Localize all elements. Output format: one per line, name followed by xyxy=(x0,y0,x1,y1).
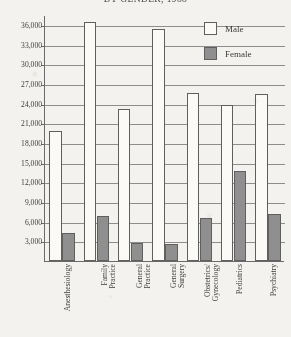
x-axis-label: GeneralSurgery xyxy=(170,264,187,334)
y-axis-label: 36,000 xyxy=(2,21,42,30)
bar-male xyxy=(152,29,165,261)
legend-label-male: Male xyxy=(225,24,244,34)
y-axis-label: 21,000 xyxy=(2,119,42,128)
bar-group xyxy=(148,16,182,261)
y-axis-label: 30,000 xyxy=(2,60,42,69)
bar-female xyxy=(62,233,75,261)
x-axis-label: Psychiatry xyxy=(270,264,278,334)
bar-female xyxy=(234,171,247,261)
bar-male xyxy=(84,22,97,261)
y-axis-label: 18,000 xyxy=(2,139,42,148)
y-axis-label: 3,000 xyxy=(2,237,42,246)
bar-female xyxy=(200,218,213,261)
legend-item-female: Female xyxy=(196,41,284,66)
bar-group xyxy=(114,16,148,261)
y-axis-label: 15,000 xyxy=(2,159,42,168)
bar-female xyxy=(131,243,144,261)
bar-female xyxy=(97,216,110,261)
y-axis-label: 33,000 xyxy=(2,41,42,50)
x-axis-label: GeneralPractice xyxy=(136,264,153,334)
chart-title: BY GENDER, 1988 xyxy=(0,0,291,4)
bar-female xyxy=(165,244,178,261)
bar-male xyxy=(187,93,200,261)
y-axis-label: 9,000 xyxy=(2,198,42,207)
bar-chart: BY GENDER, 1988 3,0006,0009,00012,00015,… xyxy=(0,0,291,337)
x-axis-label: Obstetrics/Gynecology xyxy=(204,264,221,334)
bar-group xyxy=(79,16,113,261)
x-axis-label: Anesthesiology xyxy=(64,264,72,334)
y-axis-label: 24,000 xyxy=(2,100,42,109)
x-axis-label: FamilyPractice xyxy=(101,264,118,334)
chart-legend: Male Female xyxy=(196,16,284,66)
bar-male xyxy=(49,131,62,261)
bar-group xyxy=(45,16,79,261)
legend-swatch-female xyxy=(204,47,217,60)
legend-swatch-male xyxy=(204,22,217,35)
y-axis-label: 12,000 xyxy=(2,178,42,187)
bar-female xyxy=(268,214,281,261)
bar-male xyxy=(221,105,234,261)
y-axis-label: 6,000 xyxy=(2,218,42,227)
x-axis-label: Pediatrics xyxy=(236,264,244,334)
bar-male xyxy=(118,109,131,261)
legend-label-female: Female xyxy=(225,49,252,59)
x-axis-labels: AnesthesiologyFamilyPracticeGeneralPract… xyxy=(44,264,284,337)
bar-male xyxy=(255,94,268,261)
y-axis-label: 27,000 xyxy=(2,80,42,89)
legend-item-male: Male xyxy=(196,16,284,41)
